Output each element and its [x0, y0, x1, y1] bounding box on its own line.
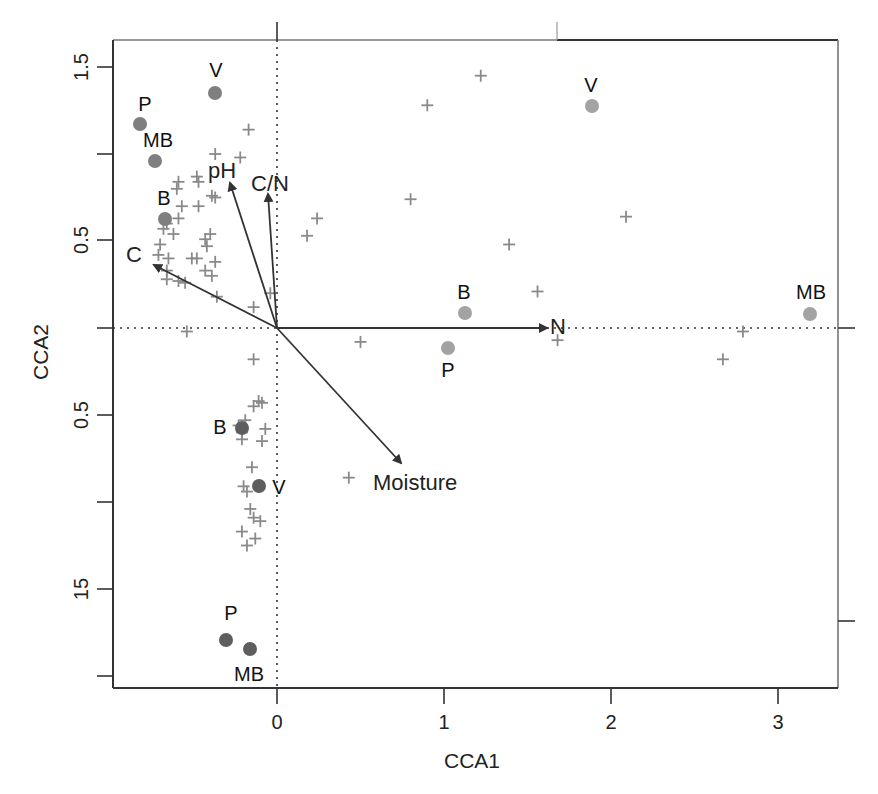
species-cross: [246, 461, 258, 473]
x-axis: 0 1 2 3 CCA1: [271, 688, 783, 772]
x-tick-label: 2: [605, 711, 616, 733]
species-cross: [301, 230, 313, 242]
species-cross: [161, 273, 173, 285]
species-cross: [193, 200, 205, 212]
cca-biplot: 0 1 2 3 CCA1 1.5 0.5 0.5 15 CCA2 C pH C/…: [0, 0, 878, 794]
species-cross: [236, 526, 248, 538]
site-label: MB: [234, 663, 264, 685]
species-cross: [249, 533, 261, 545]
vector-moisture-arrow: [277, 328, 401, 463]
x-tick-label: 3: [772, 711, 783, 733]
species-cross: [248, 301, 260, 313]
species-cross: [343, 472, 355, 484]
y-axis-title: CCA2: [29, 324, 52, 380]
species-cross: [172, 176, 184, 188]
site-point: [585, 99, 599, 113]
site-point: [458, 306, 472, 320]
species-cross: [176, 200, 188, 212]
x-tick-label: 1: [438, 711, 449, 733]
y-tick-label: 15: [70, 578, 92, 600]
site-label: P: [138, 93, 151, 115]
y-tick-label: 1.5: [70, 53, 92, 81]
vector-c-arrow: [154, 265, 277, 328]
species-cross: [206, 270, 218, 282]
species-cross: [421, 99, 433, 111]
y-tick-label: 0.5: [70, 226, 92, 254]
y-tick-label: 0.5: [70, 401, 92, 429]
species-cross: [620, 211, 632, 223]
site-point: [235, 421, 249, 435]
environmental-vectors: C pH C/N N Moisture: [126, 158, 566, 495]
site-point: [441, 341, 455, 355]
species-cross: [191, 171, 203, 183]
species-cross: [717, 353, 729, 365]
zero-lines: [113, 40, 838, 688]
plot-frame: [113, 22, 855, 688]
species-cross: [248, 353, 260, 365]
site-point: [252, 479, 266, 493]
species-cross: [236, 433, 248, 445]
x-tick-label: 0: [271, 711, 282, 733]
species-cross: [475, 70, 487, 82]
x-axis-title: CCA1: [444, 749, 500, 772]
site-label: V: [209, 59, 223, 81]
species-cross: [171, 183, 183, 195]
species-cross: [355, 336, 367, 348]
site-point: [243, 642, 257, 656]
species-cross: [259, 423, 271, 435]
species-cross: [256, 435, 268, 447]
y-axis: 1.5 0.5 0.5 15 CCA2: [29, 53, 113, 676]
site-label: MB: [143, 129, 173, 151]
species-cross: [737, 325, 749, 337]
vector-cn-arrow: [268, 194, 277, 328]
site-point: [148, 154, 162, 168]
site-label: B: [457, 281, 470, 303]
vector-c-label: C: [126, 242, 142, 267]
species-cross: [172, 212, 184, 224]
site-label: P: [224, 602, 237, 624]
site-label: V: [272, 476, 286, 498]
site-label: V: [584, 74, 598, 96]
site-points: V P MB B V B P MB B V P MB: [133, 59, 826, 685]
species-cross: [193, 176, 205, 188]
vector-moisture-label: Moisture: [373, 470, 457, 495]
vector-cn-label: C/N: [251, 171, 289, 196]
species-cross: [209, 256, 221, 268]
site-point: [219, 633, 233, 647]
species-cross: [405, 193, 417, 205]
site-label: P: [441, 359, 454, 381]
site-label: B: [157, 187, 170, 209]
species-cross: [311, 212, 323, 224]
vector-n-label: N: [550, 314, 566, 339]
species-cross: [167, 228, 179, 240]
site-point: [158, 212, 172, 226]
species-cross: [532, 285, 544, 297]
site-point: [208, 86, 222, 100]
site-point: [803, 307, 817, 321]
species-cross: [241, 540, 253, 552]
species-cross: [201, 240, 213, 252]
species-cross: [154, 238, 166, 250]
species-cross: [243, 124, 255, 136]
species-cross: [199, 265, 211, 277]
species-cross: [503, 238, 515, 250]
site-label: B: [213, 416, 226, 438]
vector-ph-label: pH: [208, 158, 236, 183]
site-label: MB: [796, 281, 826, 303]
